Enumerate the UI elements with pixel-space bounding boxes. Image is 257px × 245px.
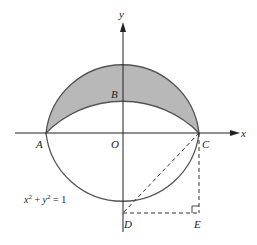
point-B-label: B [111, 88, 118, 100]
y-axis-arrow-icon [120, 22, 126, 32]
point-A-label: A [35, 138, 43, 150]
x-axis-label: x [240, 127, 246, 139]
circle-equation: x2 + y2 = 1 [23, 193, 66, 205]
point-O-label: O [111, 138, 119, 150]
y-axis-label: y [118, 8, 124, 20]
point-E-label: E [193, 218, 201, 230]
right-angle-marker [192, 206, 199, 213]
point-D-label: D [123, 218, 132, 230]
segment-CD [123, 133, 199, 213]
point-C-label: C [202, 138, 210, 150]
geometry-diagram: x y B A O C D E x2 + y2 = 1 [0, 0, 257, 245]
x-axis-arrow-icon [230, 130, 240, 136]
